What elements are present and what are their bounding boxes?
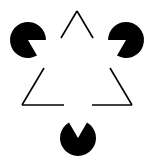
- kanizsa-triangle-illustration: [0, 0, 154, 167]
- kanizsa-figure-canvas: Kanizsa Triangle: [0, 0, 154, 167]
